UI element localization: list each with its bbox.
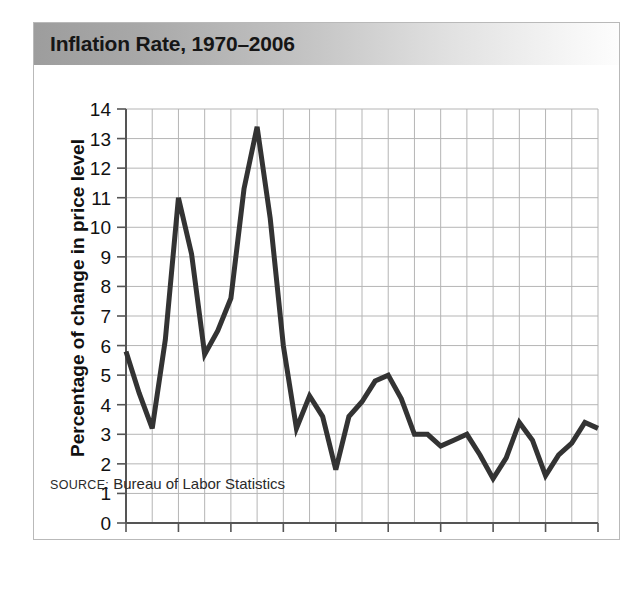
y-tick-label: 6 — [100, 336, 111, 357]
y-tick-label: 13 — [90, 129, 111, 150]
source-value: Bureau of Labor Statistics — [109, 475, 285, 492]
y-tick-label: 10 — [90, 217, 111, 238]
y-tick-label: 11 — [91, 188, 111, 209]
source-note: SOURCE: Bureau of Labor Statistics — [50, 475, 285, 492]
plot-area-wrapper: Percentage of change in price level 1413… — [34, 65, 619, 541]
x-tick-label: 1974 — [157, 537, 200, 541]
x-tick-label: 2002 — [524, 537, 566, 541]
x-tick-label: 1982 — [262, 537, 304, 541]
y-tick-label: 9 — [100, 247, 111, 268]
figure-panel: Inflation Rate, 1970–2006 Percentage of … — [33, 22, 620, 540]
x-tick-label: 1986 — [315, 537, 357, 541]
x-tick-label: 2006 — [577, 537, 619, 541]
y-tick-label: 12 — [90, 158, 111, 179]
y-tick-label: 2 — [100, 454, 111, 475]
y-tick-label: 14 — [90, 99, 112, 120]
y-tick-label: 4 — [100, 395, 111, 416]
y-tick-label: 8 — [100, 276, 111, 297]
source-prefix: SOURCE: — [50, 478, 109, 492]
y-tick-label: 0 — [100, 513, 111, 534]
title-bar: Inflation Rate, 1970–2006 — [34, 23, 619, 65]
x-tick-label: 1994 — [420, 537, 463, 541]
x-axis-ticks: 1970197419781982198619901994199820022006 — [105, 523, 619, 541]
y-tick-label: 7 — [100, 306, 111, 327]
x-tick-label: 1970 — [105, 537, 147, 541]
y-tick-label: 3 — [100, 424, 111, 445]
x-tick-label: 1990 — [367, 537, 409, 541]
page-title: Inflation Rate, 1970–2006 — [50, 32, 295, 56]
y-axis-ticks: 14131211109876543210 — [90, 99, 126, 534]
y-tick-label: 5 — [100, 365, 111, 386]
grid-lines — [126, 109, 598, 523]
x-tick-label: 1998 — [472, 537, 514, 541]
line-chart: 14131211109876543210 1970197419781982198… — [34, 65, 621, 541]
x-tick-label: 1978 — [210, 537, 252, 541]
